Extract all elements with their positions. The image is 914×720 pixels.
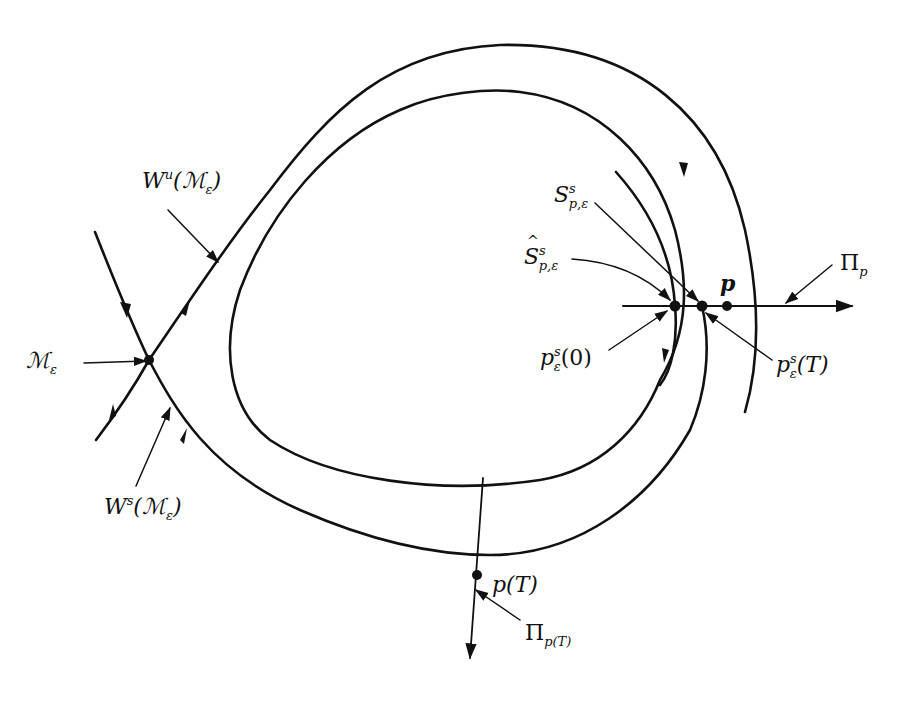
pointer-Pi-p	[786, 265, 832, 303]
point-ps-eps-0	[670, 301, 681, 312]
label-section-pi-p: Πp	[840, 252, 868, 278]
flow-arrow-unstable-down	[109, 404, 116, 420]
stable-manifold-curve	[95, 232, 707, 555]
pointer-S-s	[595, 203, 698, 301]
label-section-pi-pT: Πp(T)	[525, 622, 571, 648]
pointer-ps0	[609, 311, 667, 350]
inner-orbit-loop	[230, 91, 684, 486]
pointer-Ws	[136, 408, 170, 486]
point-p	[722, 301, 732, 311]
point-M-eps	[144, 355, 154, 365]
flow-arrow-top-right	[679, 162, 688, 177]
label-stable-fiber-hat: Ssp,ε	[524, 244, 558, 272]
pointer-S-hat	[572, 259, 670, 300]
point-p-T	[472, 570, 482, 580]
label-point-p-T: p(T)	[492, 574, 538, 596]
flow-arrow-stable-up	[180, 428, 187, 444]
label-stable-fiber: Ssp,ε	[554, 182, 588, 210]
pointer-M-eps	[84, 361, 146, 363]
unstable-manifold-lower-branch	[96, 360, 149, 440]
flow-arrow-fiber-down	[662, 348, 669, 363]
flow-arrow-unstable-up	[181, 300, 190, 316]
label-stable-manifold: Ws(ℳε)	[104, 494, 181, 522]
pointer-Wu	[168, 210, 218, 262]
point-ps-eps-T	[697, 301, 708, 312]
pointer-psT	[706, 313, 772, 360]
label-point-ps-eps-T: psε(T)	[776, 352, 829, 380]
label-unstable-manifold: Wu(ℳε)	[142, 168, 221, 196]
section-pi-pT-line	[470, 478, 483, 658]
label-point-p: p	[720, 272, 735, 294]
diagram-canvas: Wu(ℳε) ℳε Ws(ℳε) Ssp,ε Ssp,ε p Πp psε(0)…	[0, 0, 914, 720]
label-point-ps-eps-0: psε(0)	[540, 345, 592, 373]
label-invariant-manifold: ℳε	[26, 350, 57, 376]
